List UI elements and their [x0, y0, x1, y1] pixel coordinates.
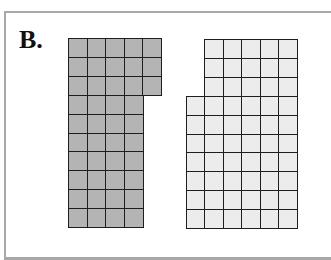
grid-square — [260, 171, 280, 191]
grid-square — [223, 77, 243, 97]
grid-square — [204, 96, 224, 116]
grid-square — [105, 76, 125, 96]
grid-square — [241, 77, 261, 97]
grid-square — [278, 134, 298, 154]
grid-square — [223, 39, 243, 59]
grid-square — [260, 115, 280, 135]
grid-square — [142, 57, 162, 77]
grid-square — [87, 76, 107, 96]
grid-square — [278, 96, 298, 116]
grid-square — [186, 134, 206, 154]
grid-square — [278, 58, 298, 78]
grid-square — [124, 95, 144, 115]
grid-square — [223, 96, 243, 116]
grid-square — [278, 171, 298, 191]
grid-square — [68, 170, 88, 190]
grid-square — [186, 209, 206, 229]
grid-square — [124, 189, 144, 209]
grid-square — [260, 190, 280, 210]
figure-label: B. — [19, 27, 43, 53]
grid-square — [260, 209, 280, 229]
grid-square — [278, 39, 298, 59]
grid-square — [241, 134, 261, 154]
grid-square — [68, 95, 88, 115]
grid-square — [241, 58, 261, 78]
grid-square — [124, 151, 144, 171]
grid-square — [204, 190, 224, 210]
grid-square — [186, 171, 206, 191]
grid-square — [105, 208, 125, 228]
grid-square — [223, 209, 243, 229]
grid-square — [204, 58, 224, 78]
grid-square — [241, 171, 261, 191]
grid-square — [87, 57, 107, 77]
grid-square — [278, 77, 298, 97]
grid-square — [223, 58, 243, 78]
grid-square — [241, 39, 261, 59]
grid-square — [204, 134, 224, 154]
grid-square — [87, 95, 107, 115]
grid-square — [278, 152, 298, 172]
grid-square — [278, 190, 298, 210]
grid-square — [241, 152, 261, 172]
grid-square — [124, 38, 144, 58]
grid-square — [68, 151, 88, 171]
grid-square — [87, 114, 107, 134]
grid-square — [223, 171, 243, 191]
grid-square — [105, 38, 125, 58]
grid-square — [204, 209, 224, 229]
grid-square — [68, 189, 88, 209]
grid-square — [68, 76, 88, 96]
grid-square — [223, 152, 243, 172]
grid-square — [260, 96, 280, 116]
grid-square — [87, 38, 107, 58]
grid-square — [204, 152, 224, 172]
grid-square — [124, 76, 144, 96]
grid-square — [87, 208, 107, 228]
grid-square — [223, 115, 243, 135]
grid-square — [68, 57, 88, 77]
grid-square — [87, 151, 107, 171]
grid-square — [260, 58, 280, 78]
grid-square — [124, 208, 144, 228]
frame-top-border — [4, 11, 331, 13]
grid-square — [186, 152, 206, 172]
grid-square — [223, 190, 243, 210]
grid-square — [105, 57, 125, 77]
grid-square — [241, 209, 261, 229]
grid-square — [278, 115, 298, 135]
grid-square — [186, 96, 206, 116]
grid-square — [260, 152, 280, 172]
grid-square — [68, 114, 88, 134]
grid-square — [204, 115, 224, 135]
grid-square — [68, 38, 88, 58]
grid-square — [142, 76, 162, 96]
grid-square — [105, 114, 125, 134]
grid-square — [186, 115, 206, 135]
grid-square — [68, 208, 88, 228]
grid-square — [124, 133, 144, 153]
grid-square — [87, 133, 107, 153]
frame-left-border — [4, 11, 6, 260]
grid-square — [142, 38, 162, 58]
grid-square — [105, 95, 125, 115]
grid-square — [68, 133, 88, 153]
grid-square — [223, 134, 243, 154]
grid-square — [260, 77, 280, 97]
grid-square — [105, 189, 125, 209]
grid-square — [278, 209, 298, 229]
grid-square — [124, 170, 144, 190]
grid-square — [204, 171, 224, 191]
grid-square — [87, 189, 107, 209]
grid-square — [186, 190, 206, 210]
grid-square — [241, 115, 261, 135]
grid-square — [204, 39, 224, 59]
grid-square — [124, 57, 144, 77]
grid-square — [241, 190, 261, 210]
grid-square — [204, 77, 224, 97]
grid-square — [105, 170, 125, 190]
grid-square — [260, 134, 280, 154]
grid-square — [124, 114, 144, 134]
grid-square — [260, 39, 280, 59]
grid-square — [105, 151, 125, 171]
